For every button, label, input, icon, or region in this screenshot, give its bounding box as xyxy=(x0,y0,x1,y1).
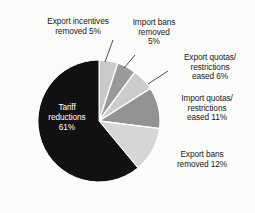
pie-label-export-incentives-removed: Export incentives removed 5% xyxy=(29,17,127,36)
pie-label-import-quotas-restrictions-eased: Import quotas/ restrictions eased 11% xyxy=(164,94,250,123)
pie-label-import-bans-removed: Import bans removed 5% xyxy=(121,18,187,47)
leader-line-export-quotas-restrictions-eased xyxy=(148,71,168,84)
pie-label-tariff-reductions: Tariff reductions 61% xyxy=(34,103,100,132)
leader-line-export-incentives-removed xyxy=(105,40,113,62)
pie-label-export-bans-removed: Export bans removed 12% xyxy=(160,150,244,169)
leader-line-import-bans-removed xyxy=(124,55,135,68)
pie-chart-figure: Export incentives removed 5% Import bans… xyxy=(0,0,255,213)
pie-label-export-quotas-restrictions-eased: Export quotas/ restrictions eased 6% xyxy=(170,53,250,82)
